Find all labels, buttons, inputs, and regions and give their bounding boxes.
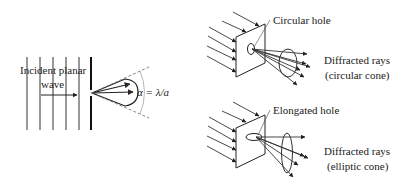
angle-formula-label: α = λ/a	[137, 86, 170, 98]
circular-cone-section	[279, 49, 297, 77]
incident-wave-label-line1: Incident planar	[20, 64, 87, 76]
planar-wave-panel: Incident planar wave α = λ/a	[20, 57, 170, 130]
elongated-hole-label: Elongated hole	[273, 104, 339, 116]
diffraction-lobe	[92, 79, 138, 106]
elliptic-rays-label-line2: (elliptic cone)	[327, 160, 389, 173]
elongated-hole-panel: Elongated hole Diffracted rays (elliptic…	[207, 102, 390, 177]
circular-hole-label: Circular hole	[273, 14, 331, 26]
circular-hole-panel: Circular hole Diffracted rays (circular …	[207, 12, 390, 85]
elliptic-cone-section	[282, 133, 293, 173]
incident-wave-label-line2: wave	[41, 78, 64, 90]
circular-rays-label-line1: Diffracted rays	[324, 54, 390, 66]
circular-rays-label-line2: (circular cone)	[325, 69, 390, 82]
diffraction-diagram: Incident planar wave α = λ/a Circular ho…	[0, 0, 414, 188]
elliptic-rays-label-line1: Diffracted rays	[324, 145, 390, 157]
